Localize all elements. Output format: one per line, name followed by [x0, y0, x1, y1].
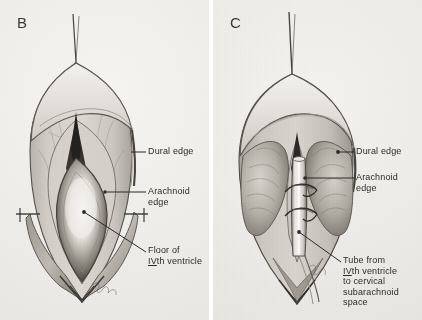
label-tube-line5: space [343, 297, 368, 307]
label-floor-line1: Floor of [148, 245, 180, 255]
panel-letter-b: B [17, 14, 28, 31]
label-tube-from-fourth-ventricle-c: Tube fromIVth ventricleto cervicalsubara… [343, 255, 399, 308]
label-tube-line1: Tube from [343, 255, 385, 265]
label-tube-line3: to cervical [343, 276, 385, 286]
label-tube-line2: th ventricle [352, 266, 397, 276]
label-arachnoid-edge-c: Arachnoid edge [356, 172, 398, 193]
figure-container: B Dural edge Arachnoid edge Floor ofIVth… [0, 0, 422, 320]
label-dural-edge-c: Dural edge [356, 146, 402, 157]
label-arachnoid-edge-b: Arachnoid edge [148, 186, 190, 207]
panel-b-background [0, 0, 209, 320]
panel-letter-c: C [230, 14, 241, 31]
label-floor-line2: th ventricle [157, 256, 202, 266]
label-floor-fourth-ventricle-b: Floor ofIVth ventricle [148, 245, 202, 266]
label-tube-roman: IV [343, 266, 352, 276]
panel-c: C Dural edge Arachnoid edge Tube fromIVt… [213, 0, 422, 320]
label-dural-edge-b: Dural edge [148, 146, 194, 157]
label-floor-roman: IV [148, 256, 157, 266]
panel-b: B Dural edge Arachnoid edge Floor ofIVth… [0, 0, 209, 320]
label-tube-line4: subarachnoid [343, 287, 399, 297]
